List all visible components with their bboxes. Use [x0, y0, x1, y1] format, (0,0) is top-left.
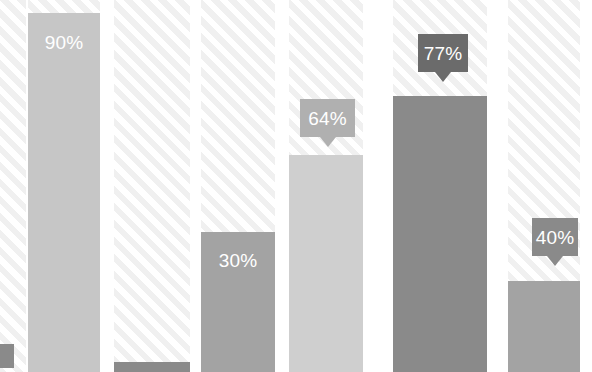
bar-2[interactable]: [114, 362, 190, 372]
chart-column-4[interactable]: 64%: [289, 0, 363, 372]
chart-column-6[interactable]: 40%: [508, 0, 580, 372]
bar-1[interactable]: 90%: [28, 13, 100, 372]
chart-column-5[interactable]: 77%: [393, 0, 487, 372]
callout-bar-6[interactable]: 40%: [532, 218, 578, 256]
callout-bar-0[interactable]: [0, 344, 14, 368]
bar-5[interactable]: [393, 96, 487, 372]
callout-bar-4-pointer: [320, 137, 336, 147]
bar-chart: 90% 30% 64% 77% 40%: [0, 0, 592, 372]
bar-3-value-label: 30%: [201, 251, 275, 270]
callout-bar-5-label: 77%: [424, 44, 463, 63]
callout-bar-4[interactable]: 64%: [300, 99, 355, 137]
bar-1-value-label: 90%: [28, 33, 100, 52]
bar-6[interactable]: [508, 281, 580, 372]
chart-column-3[interactable]: 30%: [201, 0, 275, 372]
bar-4[interactable]: [289, 155, 363, 372]
callout-bar-6-label: 40%: [536, 228, 575, 247]
callout-bar-4-label: 64%: [308, 109, 347, 128]
callout-bar-5-pointer: [435, 72, 451, 82]
chart-column-1[interactable]: 90%: [28, 0, 100, 372]
bar-3[interactable]: 30%: [201, 232, 275, 372]
callout-bar-5[interactable]: 77%: [418, 34, 468, 72]
chart-column-0[interactable]: [0, 0, 26, 372]
callout-bar-6-pointer: [547, 256, 563, 266]
chart-column-2[interactable]: [114, 0, 190, 372]
